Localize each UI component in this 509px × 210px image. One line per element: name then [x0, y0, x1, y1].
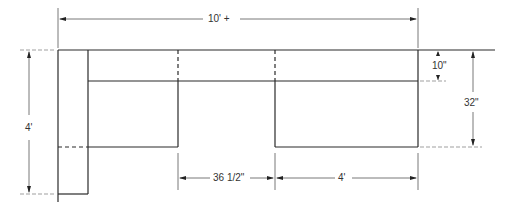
back-depth-dimension: 10": [420, 51, 447, 81]
overall-width-dimension: 10' +: [58, 8, 418, 48]
bottom-dimensions: 36 1/2" 4': [178, 153, 418, 190]
right-section-width-label: 4': [338, 172, 346, 183]
left-depth-label: 4': [25, 122, 33, 133]
seat-depth-dimension: 32": [420, 51, 482, 147]
sofa-plan-drawing: 10' + 4': [0, 0, 509, 210]
back-depth-label: 10": [432, 60, 447, 71]
sofa-outline: [58, 50, 495, 202]
left-depth-dimension: 4': [20, 50, 56, 194]
overall-width-label: 10' +: [208, 13, 230, 24]
seat-depth-label: 32": [464, 97, 479, 108]
gap-width-label: 36 1/2": [213, 172, 245, 183]
